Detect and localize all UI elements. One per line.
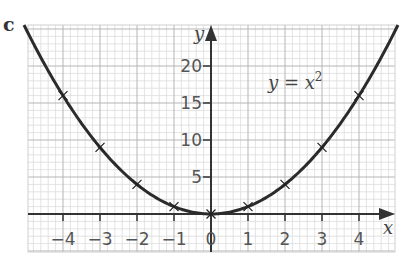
y-tick-label: 20 — [180, 56, 202, 76]
x-tick-label: 2 — [280, 229, 291, 249]
parabola-chart: −4−3−2−1012345101520 c y = x2 x y — [0, 0, 407, 256]
x-tick-label: 4 — [354, 229, 365, 249]
x-tick-label: −1 — [161, 229, 186, 249]
y-tick-label: 5 — [191, 167, 202, 187]
x-tick-label: 3 — [317, 229, 328, 249]
part-label: c — [3, 13, 15, 35]
axes — [28, 25, 395, 252]
x-tick-label: −3 — [87, 229, 112, 249]
x-tick-label: −4 — [50, 229, 75, 249]
y-tick-label: 15 — [180, 93, 202, 113]
x-tick-label: −2 — [124, 229, 149, 249]
x-tick-label: 1 — [243, 229, 254, 249]
x-tick-label: 0 — [206, 229, 217, 249]
y-axis-label: y — [193, 23, 205, 44]
equation-label: y = x2 — [267, 70, 323, 93]
y-tick-label: 10 — [180, 130, 202, 150]
x-axis-label: x — [383, 217, 393, 238]
